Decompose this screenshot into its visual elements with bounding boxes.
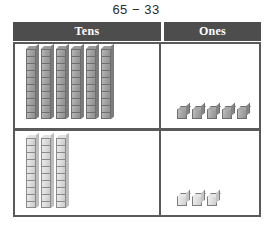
rod-segment xyxy=(41,152,51,159)
rod-segment xyxy=(56,166,66,173)
page-title: 65 − 33 xyxy=(0,2,272,17)
rod-segment xyxy=(41,56,51,63)
rod-segment xyxy=(56,98,66,105)
rod-segment xyxy=(56,49,66,56)
rod-segment xyxy=(41,159,51,166)
rod-segment xyxy=(71,63,81,70)
rod-segment xyxy=(101,70,111,77)
rod-segment xyxy=(26,201,36,208)
cell-subtrahend-ones xyxy=(161,131,259,215)
ones-cube xyxy=(177,196,187,206)
rod-segment xyxy=(26,180,36,187)
rod-segment xyxy=(41,201,51,208)
place-value-worksheet: 65 − 33 Tens Ones xyxy=(0,0,272,231)
rod-segment xyxy=(26,138,36,145)
column-header-ones: Ones xyxy=(164,22,261,41)
tens-rod xyxy=(41,138,51,208)
rod-segment xyxy=(86,112,96,119)
rod-segment xyxy=(56,138,66,145)
rod-segment xyxy=(56,152,66,159)
rod-segment xyxy=(56,63,66,70)
rod-segment xyxy=(86,70,96,77)
rod-segment xyxy=(41,105,51,112)
table-row xyxy=(15,131,259,215)
rod-segment xyxy=(41,49,51,56)
rod-segment xyxy=(41,180,51,187)
rod-segment xyxy=(26,77,36,84)
rod-segment xyxy=(101,77,111,84)
rod-segment xyxy=(86,77,96,84)
ones-cube xyxy=(207,196,217,206)
rod-segment xyxy=(26,105,36,112)
table-header-row: Tens Ones xyxy=(13,22,261,41)
rod-segment xyxy=(26,91,36,98)
table-body xyxy=(13,42,261,217)
rod-segment xyxy=(56,84,66,91)
rod-segment xyxy=(56,194,66,201)
rod-segment xyxy=(26,56,36,63)
rod-segment xyxy=(71,91,81,98)
rod-segment xyxy=(86,56,96,63)
rod-segment xyxy=(71,98,81,105)
rod-segment xyxy=(101,63,111,70)
rod-segment xyxy=(86,84,96,91)
rod-segment xyxy=(56,105,66,112)
rod-segment xyxy=(101,56,111,63)
rod-segment xyxy=(56,91,66,98)
rod-segment xyxy=(41,173,51,180)
table-row xyxy=(15,44,259,131)
rod-segment xyxy=(86,105,96,112)
rod-segment xyxy=(86,91,96,98)
rod-segment xyxy=(56,180,66,187)
rod-segment xyxy=(101,49,111,56)
rod-segment xyxy=(26,63,36,70)
tens-rod xyxy=(26,49,36,119)
rod-segment xyxy=(26,70,36,77)
place-value-table: Tens Ones xyxy=(13,22,261,217)
rod-segment xyxy=(26,187,36,194)
rod-segment xyxy=(86,98,96,105)
rod-segment xyxy=(41,84,51,91)
rod-segment xyxy=(56,56,66,63)
ones-cube xyxy=(177,109,187,119)
cell-subtrahend-tens xyxy=(15,131,161,215)
tens-rod xyxy=(26,138,36,208)
rod-segment xyxy=(101,84,111,91)
ones-cube xyxy=(222,109,232,119)
tens-rod xyxy=(56,138,66,208)
rod-segment xyxy=(86,49,96,56)
cell-minuend-tens xyxy=(15,44,161,128)
rod-segment xyxy=(41,77,51,84)
tens-rod-group xyxy=(26,49,111,119)
rod-segment xyxy=(41,187,51,194)
tens-rod-group xyxy=(26,138,66,208)
rod-segment xyxy=(41,91,51,98)
rod-segment xyxy=(41,194,51,201)
rod-segment xyxy=(101,112,111,119)
ones-cube xyxy=(207,109,217,119)
rod-segment xyxy=(71,56,81,63)
rod-segment xyxy=(56,187,66,194)
rod-segment xyxy=(71,70,81,77)
rod-segment xyxy=(71,77,81,84)
rod-segment xyxy=(56,77,66,84)
ones-cube-group xyxy=(177,196,217,206)
rod-segment xyxy=(41,145,51,152)
rod-segment xyxy=(26,49,36,56)
rod-segment xyxy=(26,112,36,119)
column-header-tens: Tens xyxy=(13,22,161,41)
rod-segment xyxy=(101,91,111,98)
rod-segment xyxy=(56,159,66,166)
rod-segment xyxy=(26,166,36,173)
rod-segment xyxy=(26,159,36,166)
rod-segment xyxy=(101,98,111,105)
rod-segment xyxy=(71,112,81,119)
tens-rod xyxy=(41,49,51,119)
ones-cube xyxy=(192,109,202,119)
rod-segment xyxy=(56,201,66,208)
rod-segment xyxy=(56,145,66,152)
rod-segment xyxy=(26,152,36,159)
tens-rod xyxy=(56,49,66,119)
ones-cube xyxy=(237,109,247,119)
rod-segment xyxy=(41,138,51,145)
